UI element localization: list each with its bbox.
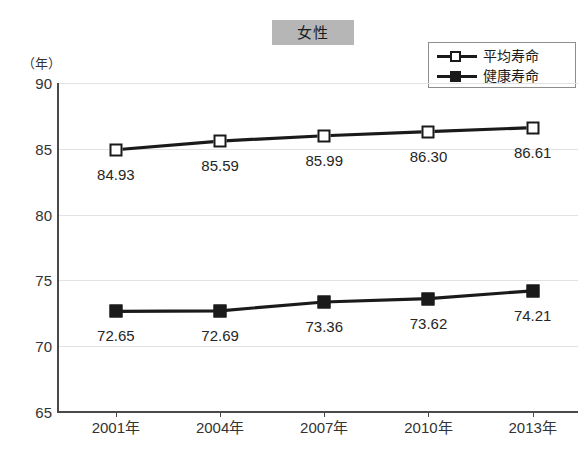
x-axis-tick [116, 411, 117, 417]
series-lines [0, 0, 588, 462]
x-axis-tick [220, 411, 221, 417]
life-expectancy-line-chart: 女性 平均寿命 健康寿命 （年） 908580757065 2001年2004年… [0, 0, 588, 462]
x-axis-tick [428, 411, 429, 417]
x-axis-tick [324, 411, 325, 417]
series-line [116, 291, 533, 312]
x-axis-tick [533, 411, 534, 417]
series-line [116, 128, 533, 150]
